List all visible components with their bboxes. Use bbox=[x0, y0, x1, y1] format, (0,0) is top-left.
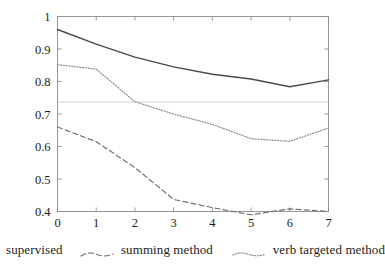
legend-label-summing-method: summing method bbox=[121, 242, 213, 258]
y-tick-label: 0.7 bbox=[35, 108, 51, 122]
y-tick-label: 0.8 bbox=[35, 75, 51, 89]
x-tick-label: 2 bbox=[132, 216, 138, 230]
y-tick-label: 1 bbox=[44, 10, 50, 24]
legend-item-verb-targeted-method: verb targeted method bbox=[225, 242, 385, 258]
legend-label-supervised: supervised bbox=[6, 242, 63, 258]
y-tick-label: 0.6 bbox=[35, 140, 51, 154]
x-tick-label: 3 bbox=[171, 216, 177, 230]
legend-line-sample-dashed-icon bbox=[80, 245, 114, 255]
x-tick-label: 1 bbox=[93, 216, 99, 230]
series-line-supervised bbox=[58, 30, 329, 87]
y-tick-label: 0.9 bbox=[35, 43, 51, 57]
axis-frame bbox=[58, 17, 329, 212]
chart-plot-area: 10.90.80.70.60.50.401234567 bbox=[0, 0, 385, 232]
x-tick-label: 0 bbox=[54, 216, 60, 230]
legend-item-summing-method: summing method bbox=[73, 242, 213, 258]
legend-item-supervised: supervised bbox=[6, 242, 63, 258]
chart-legend: supervised summing method verb targeted … bbox=[0, 236, 385, 264]
x-tick-label: 5 bbox=[248, 216, 254, 230]
x-tick-label: 4 bbox=[209, 216, 216, 230]
line-chart: 10.90.80.70.60.50.401234567 bbox=[0, 0, 385, 232]
y-tick-label: 0.4 bbox=[35, 205, 51, 219]
series-line-summing-method bbox=[58, 127, 329, 215]
figure: 10.90.80.70.60.50.401234567 supervised s… bbox=[0, 0, 385, 264]
x-tick-label: 6 bbox=[287, 216, 293, 230]
legend-label-verb-targeted-method: verb targeted method bbox=[273, 242, 385, 258]
series-line-verb-targeted-method bbox=[58, 65, 329, 142]
x-tick-label: 7 bbox=[325, 216, 331, 230]
y-tick-label: 0.5 bbox=[35, 173, 51, 187]
legend-line-sample-dotted-icon bbox=[232, 245, 266, 255]
